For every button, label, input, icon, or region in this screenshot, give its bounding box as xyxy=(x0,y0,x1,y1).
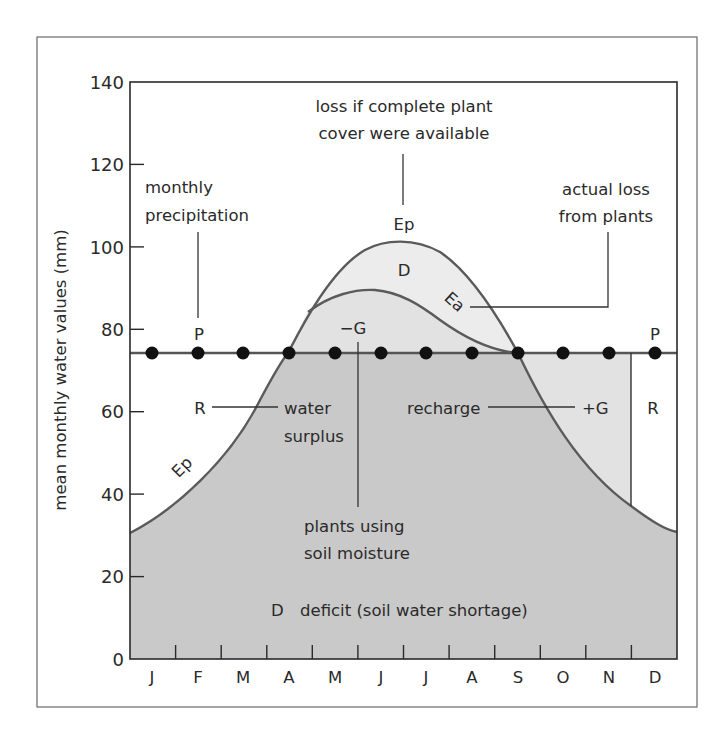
dot-aug xyxy=(466,347,479,360)
p-right-label: P xyxy=(650,325,660,344)
dot-nov xyxy=(603,347,616,360)
month-apr: A xyxy=(283,668,295,687)
dot-may xyxy=(329,347,342,360)
dot-mar xyxy=(237,347,250,360)
d-upper-label: D xyxy=(398,261,411,280)
month-jun: J xyxy=(378,668,384,687)
ea-note-line2: from plants xyxy=(559,207,653,226)
plants-note-line2: soil moisture xyxy=(304,544,410,563)
deficit-d-label: D xyxy=(271,601,284,620)
month-aug: A xyxy=(466,668,478,687)
precip-note-line2: precipitation xyxy=(145,206,249,225)
minus-g-label: −G xyxy=(340,319,367,338)
month-mar: M xyxy=(236,668,250,687)
month-feb: F xyxy=(193,668,203,687)
month-jul: J xyxy=(423,668,429,687)
month-may: M xyxy=(328,668,342,687)
dot-jul xyxy=(420,347,433,360)
ytick-60: 60 xyxy=(101,401,124,422)
ep-note-line2: cover were available xyxy=(318,124,489,143)
p-left-label: P xyxy=(194,325,204,344)
deficit-text: deficit (soil water shortage) xyxy=(300,601,528,620)
r-left-label: R xyxy=(194,399,205,418)
plants-note-line1: plants using xyxy=(304,517,405,536)
water-surplus-line1: water xyxy=(284,399,331,418)
month-sep: S xyxy=(513,668,523,687)
ytick-120: 120 xyxy=(90,154,124,175)
ytick-0: 0 xyxy=(113,649,124,670)
y-axis-title: mean monthly water values (mm) xyxy=(51,229,70,510)
dot-jun xyxy=(375,347,388,360)
ea-note-line1: actual loss xyxy=(562,180,650,199)
month-dec: D xyxy=(649,668,662,687)
plus-g-label: +G xyxy=(582,399,609,418)
month-oct: O xyxy=(557,668,570,687)
ep-top-label: Ep xyxy=(394,215,415,234)
precip-note-line1: monthly xyxy=(145,178,213,197)
dot-sep xyxy=(512,347,525,360)
dot-feb xyxy=(192,347,205,360)
dot-dec xyxy=(649,347,662,360)
recharge-label: recharge xyxy=(407,399,480,418)
water-surplus-line2: surplus xyxy=(284,427,344,446)
dot-apr xyxy=(283,347,296,360)
ep-note-line1: loss if complete plant xyxy=(315,97,493,116)
ytick-100: 100 xyxy=(90,237,124,258)
ytick-80: 80 xyxy=(101,319,124,340)
ytick-140: 140 xyxy=(90,72,124,93)
r-right-label: R xyxy=(647,399,658,418)
dot-oct xyxy=(557,347,570,360)
water-balance-chart: 0 20 40 60 80 100 120 140 mean monthly w… xyxy=(0,0,721,732)
ytick-40: 40 xyxy=(101,484,124,505)
month-jan: J xyxy=(149,668,155,687)
month-nov: N xyxy=(603,668,615,687)
dot-jan xyxy=(146,347,159,360)
ytick-20: 20 xyxy=(101,566,124,587)
